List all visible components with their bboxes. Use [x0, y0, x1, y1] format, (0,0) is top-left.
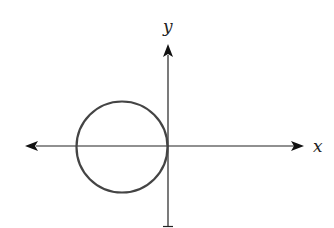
x-axis: x	[25, 136, 323, 156]
circle-shape	[77, 102, 168, 193]
y-axis-label: y	[162, 16, 173, 36]
y-axis: y	[162, 16, 173, 227]
coordinate-diagram: x y	[0, 0, 334, 228]
x-axis-label: x	[313, 136, 323, 156]
